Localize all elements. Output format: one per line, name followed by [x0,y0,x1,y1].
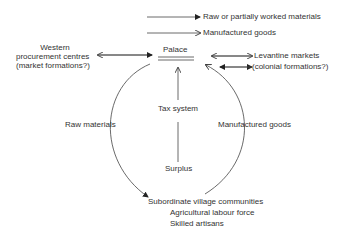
palace-label: Palace [163,45,187,55]
tax-system-label: Tax system [158,104,198,114]
levantine-label-2: (colonial formations?) [252,62,328,72]
manufactured-goods-label: Manufactured goods [218,120,291,130]
levantine-label-1: Levantine markets [254,51,319,61]
village-label-3: Skilled artisans [170,219,224,229]
legend-raw-label: Raw or partially worked materials [203,12,321,22]
legend-manufactured-label: Manufactured goods [203,28,276,38]
raw-materials-label: Raw materials [65,120,116,130]
village-label-1: Subordinate village communities [148,197,263,207]
western-label-3: (market formations?) [16,61,90,71]
village-label-2: Agricultural labour force [170,208,254,218]
surplus-label: Surplus [165,164,192,174]
